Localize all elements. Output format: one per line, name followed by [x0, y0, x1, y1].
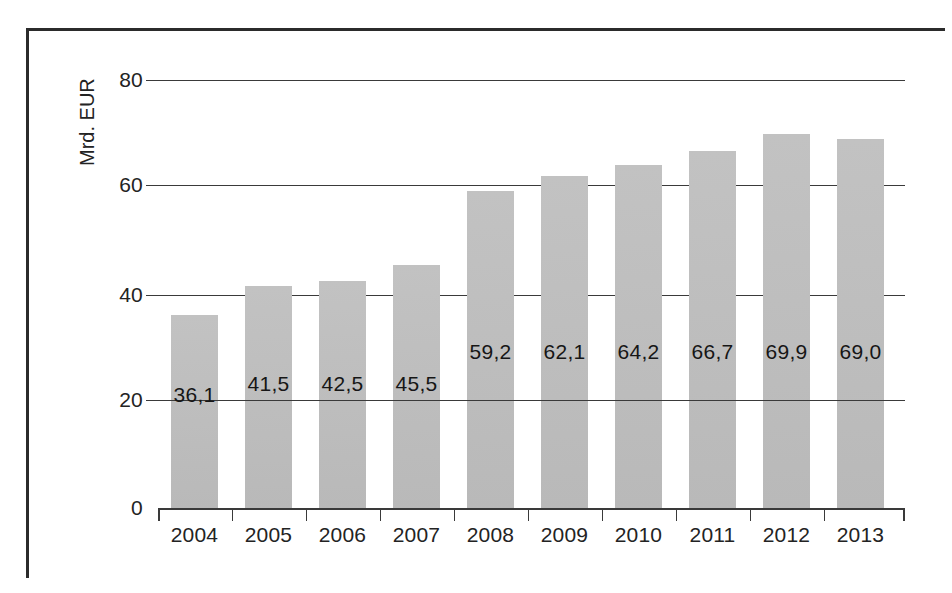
- x-tick-label-2012: 2012: [753, 523, 820, 547]
- x-tick-label-2011: 2011: [679, 523, 746, 547]
- x-tick-label-2004: 2004: [161, 523, 228, 547]
- bar-value-2004: 36,1: [161, 383, 228, 407]
- bar-chart-plot-area: Mrd. EUR 80 60 40 20 0 36,1 41,5 42,5: [0, 0, 952, 593]
- y-tick-label-0: 0: [83, 496, 143, 520]
- x-axis-tick-9: [824, 508, 825, 521]
- x-tick-label-2006: 2006: [309, 523, 376, 547]
- x-tick-label-2007: 2007: [383, 523, 450, 547]
- bar-value-2008: 59,2: [457, 340, 524, 364]
- bar-2011[interactable]: [689, 151, 736, 508]
- x-tick-label-2010: 2010: [605, 523, 672, 547]
- bar-2010[interactable]: [615, 165, 662, 508]
- x-axis-tick-4: [454, 508, 455, 521]
- bar-value-2005: 41,5: [235, 372, 302, 396]
- x-axis-tick-8: [750, 508, 751, 521]
- bar-value-2012: 69,9: [753, 340, 820, 364]
- x-tick-label-2008: 2008: [457, 523, 524, 547]
- y-axis-title: Mrd. EUR: [76, 26, 99, 166]
- x-axis-tick-7: [676, 508, 677, 521]
- bar-2004[interactable]: [171, 315, 218, 508]
- y-tick-label-80: 80: [83, 68, 143, 92]
- bar-value-2006: 42,5: [309, 372, 376, 396]
- x-tick-label-2005: 2005: [235, 523, 302, 547]
- x-axis-tick-end: [903, 508, 905, 521]
- x-axis-tick-1: [232, 508, 233, 521]
- bar-value-2010: 64,2: [605, 340, 672, 364]
- bar-2013[interactable]: [837, 139, 884, 508]
- chart-page: Mrd. EUR 80 60 40 20 0 36,1 41,5 42,5: [0, 0, 952, 593]
- x-axis-line: [158, 508, 905, 510]
- gridline-80: [158, 80, 905, 81]
- bar-value-2009: 62,1: [531, 340, 598, 364]
- x-tick-label-2009: 2009: [531, 523, 598, 547]
- y-tick-label-20: 20: [83, 388, 143, 412]
- x-axis-tick-2: [306, 508, 307, 521]
- bar-value-2013: 69,0: [827, 340, 894, 364]
- bar-2005[interactable]: [245, 286, 292, 508]
- y-tick-label-60: 60: [83, 173, 143, 197]
- x-axis-tick-3: [380, 508, 381, 521]
- bar-2012[interactable]: [763, 134, 810, 508]
- x-tick-label-2013: 2013: [827, 523, 894, 547]
- bar-value-2007: 45,5: [383, 372, 450, 396]
- x-axis-tick-5: [528, 508, 529, 521]
- y-tick-label-40: 40: [83, 283, 143, 307]
- x-axis-tick-6: [602, 508, 603, 521]
- gridline-20: [158, 400, 905, 401]
- bar-value-2011: 66,7: [679, 340, 746, 364]
- x-axis-tick-start: [158, 508, 160, 521]
